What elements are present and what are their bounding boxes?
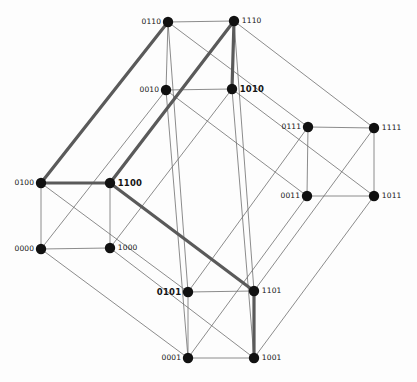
graph-node[interactable]	[227, 84, 237, 94]
graph-edge	[168, 22, 188, 292]
graph-node-label: 1110	[242, 17, 262, 25]
graph-edge	[234, 21, 254, 291]
graph-edge	[188, 291, 254, 292]
graph-node[interactable]	[183, 353, 193, 363]
graph-edge	[41, 249, 188, 358]
graph-node-label: 0101	[157, 288, 181, 297]
graph-node[interactable]	[105, 243, 115, 253]
graph-node-label: 0010	[139, 86, 159, 94]
graph-edge	[166, 90, 188, 358]
graph-edge	[41, 183, 188, 292]
graph-node[interactable]	[36, 244, 46, 254]
graph-node-label: 0000	[14, 245, 34, 253]
graph-node[interactable]	[36, 178, 46, 188]
graph-node[interactable]	[249, 286, 259, 296]
graph-edge	[234, 21, 374, 128]
graph-node[interactable]	[302, 191, 312, 201]
graph-edge-highlighted	[41, 22, 168, 183]
graph-edge	[308, 127, 374, 128]
hypercube-graph-figure: 0110111000101010011111110011101101001100…	[0, 0, 417, 382]
graph-node-label: 0011	[280, 192, 300, 200]
graph-node-label: 0110	[141, 18, 161, 26]
edge-layer	[41, 21, 374, 358]
graph-node-label: 1010	[240, 85, 264, 94]
graph-node-label: 1101	[262, 287, 282, 295]
graph-edge	[232, 89, 254, 358]
graph-node-label: 1100	[118, 179, 142, 188]
graph-node[interactable]	[161, 85, 171, 95]
graph-edge	[110, 89, 232, 248]
graph-node[interactable]	[229, 16, 239, 26]
graph-node-label: 0111	[281, 123, 301, 131]
graph-node[interactable]	[369, 191, 379, 201]
graph-edge	[41, 90, 166, 249]
graph-edge	[166, 89, 232, 90]
graph-node-label: 0100	[14, 179, 34, 187]
graph-node[interactable]	[249, 353, 259, 363]
graph-node[interactable]	[369, 123, 379, 133]
graph-node[interactable]	[163, 17, 173, 27]
graph-edge-highlighted	[110, 183, 254, 291]
graph-node[interactable]	[303, 122, 313, 132]
graph-edge	[254, 196, 374, 358]
graph-node-label: 1111	[382, 124, 402, 132]
graph-node[interactable]	[183, 287, 193, 297]
graph-edge	[110, 248, 254, 358]
graph-edge-highlighted	[232, 21, 234, 89]
graph-edge	[254, 128, 374, 291]
graph-edge	[166, 22, 168, 90]
graph-edge	[307, 127, 308, 196]
graph-node[interactable]	[105, 178, 115, 188]
graph-edge	[168, 21, 234, 22]
graph-edge	[41, 248, 110, 249]
graph-canvas	[0, 0, 417, 382]
graph-edge	[188, 196, 307, 358]
graph-node-label: 1001	[262, 354, 282, 362]
graph-node-label: 1011	[382, 192, 402, 200]
graph-edge	[232, 89, 374, 196]
graph-node-label: 1000	[118, 244, 138, 252]
graph-node-label: 0001	[161, 354, 181, 362]
